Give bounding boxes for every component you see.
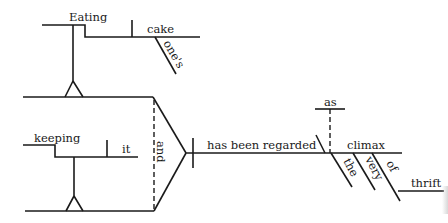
- word-eating: Eating: [69, 10, 108, 24]
- sentence-diagram: Eating cake one's and keeping it has bee…: [0, 0, 448, 223]
- gerund-phrase-eating: Eating cake one's: [42, 10, 200, 97]
- climax-modifiers: the very of thrift: [331, 153, 444, 201]
- word-thrift: thrift: [411, 176, 441, 190]
- gerund-phrase-keeping: keeping it: [23, 131, 138, 211]
- word-cake: cake: [147, 22, 174, 36]
- compound-subject-frame: and: [23, 97, 186, 211]
- word-of: of: [383, 158, 401, 175]
- page-edge-shadow: [442, 186, 448, 214]
- word-and: and: [154, 141, 168, 163]
- word-keeping: keeping: [34, 131, 81, 145]
- word-has-been-regarded: has been regarded: [207, 138, 317, 152]
- word-the: the: [340, 156, 361, 179]
- word-climax: climax: [347, 138, 386, 152]
- word-as: as: [324, 95, 337, 109]
- word-it: it: [122, 142, 131, 156]
